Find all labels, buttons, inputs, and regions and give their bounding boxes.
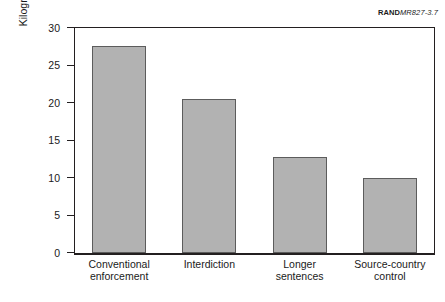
document-number-label: MR827-3.7 — [400, 8, 438, 17]
bar — [92, 46, 146, 253]
x-axis-category-label: Source-countrycontrol — [320, 258, 445, 283]
bar — [182, 99, 236, 253]
y-axis-tick-label: 5 — [0, 210, 60, 221]
y-axis-tick-mark — [67, 102, 75, 103]
x-axis-category-label-line: enforcement — [49, 270, 189, 282]
y-axis-tick-mark — [67, 177, 75, 178]
source-identifier: RANDMR827-3.7 — [378, 9, 438, 17]
y-axis-tick-label: 20 — [0, 97, 60, 108]
y-axis-tick-label: 0 — [0, 247, 60, 258]
rand-brand-label: RAND — [378, 8, 400, 17]
y-axis-tick-label: 25 — [0, 60, 60, 71]
y-axis-tick-label: 10 — [0, 172, 60, 183]
x-axis-category-label-line: control — [320, 270, 445, 282]
x-axis-category-label-line: Source-country — [320, 258, 445, 270]
y-axis-tick-mark — [67, 252, 75, 253]
y-axis-tick-mark — [67, 65, 75, 66]
y-axis-tick-mark — [67, 140, 75, 141]
bar — [273, 157, 327, 252]
y-axis-tick-label: 30 — [0, 22, 60, 33]
y-axis-tick-label: 15 — [0, 135, 60, 146]
y-axis-tick-mark — [67, 27, 75, 28]
bar-chart-figure: RANDMR827-3.7 Kilograms of consumption p… — [0, 0, 445, 302]
y-axis-tick-mark — [67, 215, 75, 216]
x-axis-baseline — [74, 253, 435, 255]
bar — [363, 178, 417, 253]
